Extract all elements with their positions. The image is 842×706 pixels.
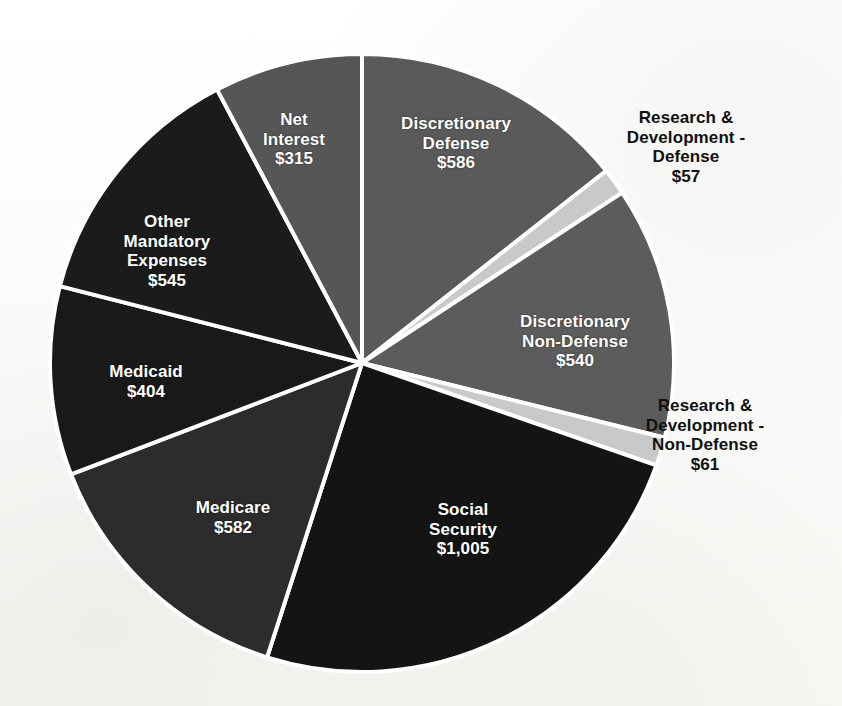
pie-chart-page: Discretionary Defense $586 Research & De… [0, 0, 842, 706]
pie-slices-group [50, 54, 674, 672]
pie-chart-figure [0, 0, 842, 706]
